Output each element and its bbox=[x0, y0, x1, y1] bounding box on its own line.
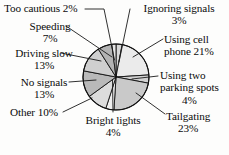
pie-label-too-cautious-text: Too cautious 2% bbox=[4, 2, 78, 14]
pie-label-no-signals-text: No signals bbox=[21, 76, 68, 88]
pie-label-tailgating: Tailgating 23% bbox=[166, 110, 210, 135]
pie-label-using-cell-phone: Using cell phone 21% bbox=[164, 33, 214, 58]
pie-slice-tailgating bbox=[114, 77, 148, 110]
pie-label-tailgating-text: Tailgating bbox=[166, 110, 210, 122]
pie-label-driving-slow-value: 13% bbox=[2, 59, 86, 71]
pie-label-other-text: Other 10% bbox=[10, 106, 58, 118]
pie-slice-using-cell-phone bbox=[116, 45, 149, 77]
pie-label-too-cautious: Too cautious 2% bbox=[4, 2, 78, 14]
pie-label-using-two-parking-spots-text: Using two bbox=[160, 69, 205, 81]
pie-label-ignoring-signals: Ignoring signals 3% bbox=[131, 2, 227, 27]
pie-label-ignoring-signals-text: Ignoring signals bbox=[144, 2, 215, 14]
pie-label-ignoring-signals-value: 3% bbox=[131, 14, 227, 26]
pie-label-using-two-parking-spots: Using two parking spots 4% bbox=[160, 69, 219, 106]
pie-chart-figure: Too cautious 2% Speeding 7% Driving slow… bbox=[0, 0, 229, 155]
pie-label-other: Other 10% bbox=[10, 106, 58, 118]
leader-line-bright-lights bbox=[113, 80, 114, 112]
pie-label-bright-lights-value: 4% bbox=[78, 126, 148, 138]
pie-label-no-signals: No signals 13% bbox=[4, 76, 84, 101]
pie-label-driving-slow: Driving slow 13% bbox=[2, 47, 86, 72]
pie-label-speeding-text: Speeding bbox=[30, 20, 71, 32]
pie-label-no-signals-value: 13% bbox=[4, 88, 84, 100]
pie-label-using-cell-phone-value: phone 21% bbox=[164, 45, 214, 57]
pie-label-using-cell-phone-text: Using cell bbox=[164, 33, 209, 45]
pie-label-speeding-value: 7% bbox=[14, 32, 86, 44]
pie-label-speeding: Speeding 7% bbox=[14, 20, 86, 45]
pie-label-using-two-parking-spots-value: 4% bbox=[160, 94, 219, 106]
pie-label-driving-slow-text: Driving slow bbox=[15, 47, 73, 59]
pie-label-using-two-parking-spots-text2: parking spots bbox=[160, 81, 219, 93]
leader-line-using-cell-phone bbox=[133, 39, 163, 57]
pie-label-bright-lights: Bright lights 4% bbox=[78, 114, 148, 139]
pie-label-tailgating-value: 23% bbox=[166, 122, 210, 134]
pie-label-bright-lights-text: Bright lights bbox=[86, 114, 141, 126]
